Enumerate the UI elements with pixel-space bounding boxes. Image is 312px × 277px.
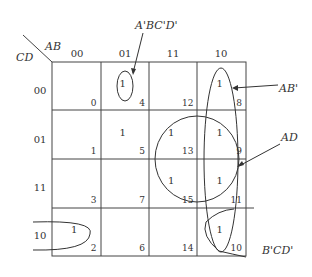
kmap-cell: 110 <box>217 224 243 253</box>
col-label-00: 00 <box>71 48 84 59</box>
kmap-cell: 113 <box>168 127 194 156</box>
cell-index: 2 <box>91 243 97 253</box>
cell-index: 7 <box>139 195 145 205</box>
col-label-01: 01 <box>119 48 132 59</box>
col-label-10: 10 <box>215 48 228 59</box>
kmap-cell: 1 <box>91 146 97 156</box>
group-label-ab: AB' <box>278 82 298 95</box>
kmap-cell: 7 <box>139 195 145 205</box>
karnaugh-map-diagram: AB CD 00 01 11 10 00 01 11 10 0141218115… <box>0 0 312 277</box>
cell-index: 3 <box>91 195 97 205</box>
kmap-cell: 6 <box>139 243 145 253</box>
cell-index: 6 <box>139 243 145 253</box>
arrowhead-icon <box>131 68 136 75</box>
arrow-ab <box>234 85 278 88</box>
cell-index: 10 <box>231 243 243 253</box>
cell-value: 1 <box>217 224 223 235</box>
cell-value: 1 <box>120 78 126 89</box>
cell-value: 1 <box>120 127 126 138</box>
group-label-b-cd: B'CD' <box>261 244 293 257</box>
cell-index: 4 <box>139 98 145 108</box>
kmap-cell: 14 <box>182 243 194 253</box>
cell-index: 1 <box>91 146 97 156</box>
col-label-11: 11 <box>167 48 180 59</box>
cell-index: 8 <box>236 98 242 108</box>
row-label-11: 11 <box>34 182 47 193</box>
cell-value: 1 <box>168 175 174 186</box>
kmap-cell: 18 <box>217 78 243 107</box>
arrow-a-bc-d <box>133 33 143 73</box>
kmap-grid <box>52 62 254 256</box>
kmap-cell: 111 <box>217 175 242 204</box>
cell-value: 1 <box>217 175 223 186</box>
kmap-cell: 0 <box>91 98 97 108</box>
cell-index: 12 <box>182 98 193 108</box>
kmap-cell: 115 <box>168 175 194 204</box>
cell-index: 13 <box>182 146 194 156</box>
arrow-ad <box>239 144 280 166</box>
row-label-00: 00 <box>34 85 47 96</box>
group-label-a-bc-d: A'BC'D' <box>134 19 178 32</box>
cell-value: 1 <box>168 127 174 138</box>
kmap-cell: 3 <box>91 195 97 205</box>
row-label-10: 10 <box>34 230 47 241</box>
group-label-ad: AD <box>280 131 298 144</box>
col-var-label: AB <box>44 40 61 53</box>
kmap-cell: 15 <box>120 127 146 156</box>
kmap-cells: 0141218115113193711511112614110 <box>71 78 242 253</box>
cell-value: 1 <box>71 224 77 235</box>
cell-value: 1 <box>217 127 223 138</box>
kmap-svg: AB CD 00 01 11 10 00 01 11 10 0141218115… <box>0 0 312 277</box>
cell-index: 5 <box>139 146 145 156</box>
cell-index: 14 <box>182 243 194 253</box>
cell-value: 1 <box>217 78 223 89</box>
arrowhead-icon <box>232 85 238 91</box>
kmap-cell: 12 <box>182 98 193 108</box>
row-var-label: CD <box>16 51 33 64</box>
cell-index: 0 <box>91 98 97 108</box>
kmap-cell: 12 <box>71 224 96 253</box>
row-label-01: 01 <box>34 134 47 145</box>
